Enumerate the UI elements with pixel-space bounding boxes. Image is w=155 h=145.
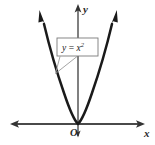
parabola-left-arrow-icon [38,10,45,26]
leader-line-b [56,57,78,74]
callout-variable: y [61,43,67,53]
parabola-right-arrow-icon [111,10,118,26]
x-axis-label: x [143,127,150,139]
y-axis-label: y [81,3,88,15]
equation-callout: y=x2 [57,38,98,56]
y-axis [75,4,82,138]
figure-canvas: y=x2 y x O [0,0,155,145]
callout-leader-lines [56,57,78,74]
callout-equals: = [69,43,74,53]
origin-label: O [70,127,78,138]
parabola-figure: y=x2 y x O [0,0,155,145]
